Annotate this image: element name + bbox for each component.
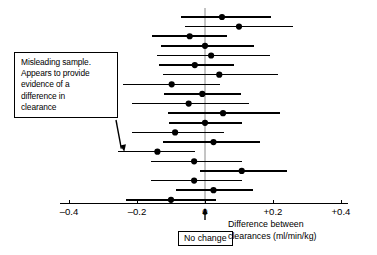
point-estimate-marker bbox=[219, 14, 225, 20]
x-axis-tick-label: –0.2 bbox=[117, 207, 157, 217]
callout-pointer-line bbox=[116, 120, 121, 149]
callout-line-3: evidence of a bbox=[21, 79, 112, 90]
point-estimate-marker bbox=[154, 149, 160, 155]
x-axis-tick-label: 0 bbox=[185, 207, 225, 217]
point-estimate-marker bbox=[172, 129, 178, 135]
x-axis-tick-label: +0.2 bbox=[253, 207, 293, 217]
point-estimate-marker bbox=[239, 168, 245, 174]
point-estimate-marker bbox=[168, 197, 174, 203]
point-estimate-marker bbox=[210, 187, 216, 193]
no-change-label-box: No change bbox=[178, 231, 233, 246]
misleading-sample-callout: Misleading sample. Appears to provide ev… bbox=[14, 52, 118, 118]
point-estimate-marker bbox=[236, 24, 242, 30]
point-estimate-marker bbox=[220, 110, 226, 116]
forest-plot: –0.4–0.20+0.2+0.4 Misleading sample. App… bbox=[0, 0, 377, 255]
point-estimate-marker bbox=[192, 62, 198, 68]
point-estimate-marker bbox=[187, 33, 193, 39]
point-estimate-marker bbox=[202, 43, 208, 49]
callout-line-2: Appears to provide bbox=[21, 68, 112, 79]
point-estimate-marker bbox=[216, 72, 222, 78]
x-axis-caption: Difference between clearances (ml/min/kg… bbox=[228, 219, 316, 242]
point-estimate-marker bbox=[202, 120, 208, 126]
point-estimate-marker bbox=[210, 139, 216, 145]
x-axis-caption-line-2: clearances (ml/min/kg) bbox=[228, 231, 316, 243]
x-axis-tick-label: +0.4 bbox=[321, 207, 361, 217]
no-change-label: No change bbox=[184, 233, 227, 243]
callout-line-1: Misleading sample. bbox=[21, 57, 112, 68]
x-axis-tick-label: –0.4 bbox=[49, 207, 89, 217]
point-estimate-marker bbox=[191, 177, 197, 183]
point-estimate-marker bbox=[186, 100, 192, 106]
point-estimate-marker bbox=[208, 52, 214, 58]
point-estimate-marker bbox=[169, 81, 175, 87]
x-axis-caption-line-1: Difference between bbox=[228, 219, 316, 231]
point-estimate-marker bbox=[199, 91, 205, 97]
callout-line-5: clearance bbox=[21, 102, 112, 113]
point-estimate-marker bbox=[191, 158, 197, 164]
callout-line-4: difference in bbox=[21, 91, 112, 102]
